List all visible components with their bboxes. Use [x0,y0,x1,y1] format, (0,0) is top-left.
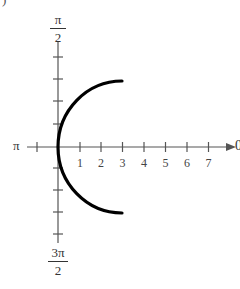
tick-label-7: 7 [203,156,215,171]
fraction-bar [50,28,66,29]
angle-label-0: 0 [235,139,240,153]
tick-label-2: 2 [95,156,107,171]
tick-label-1: 1 [74,156,86,171]
angle-label-pi-half: π 2 [48,13,68,44]
fraction-denominator: 2 [46,264,70,277]
fraction-denominator: 2 [48,31,68,44]
polar-plot [0,0,240,289]
tick-label-4: 4 [138,156,150,171]
fraction-numerator: π [48,13,68,26]
tick-label-3: 3 [117,156,129,171]
angle-label-pi: π [13,139,20,152]
fraction-numerator: 3π [46,246,70,259]
fraction-bar [48,261,68,262]
angle-label-three-pi-half: 3π 2 [46,246,70,277]
tick-label-6: 6 [181,156,193,171]
tick-label-5: 5 [160,156,172,171]
